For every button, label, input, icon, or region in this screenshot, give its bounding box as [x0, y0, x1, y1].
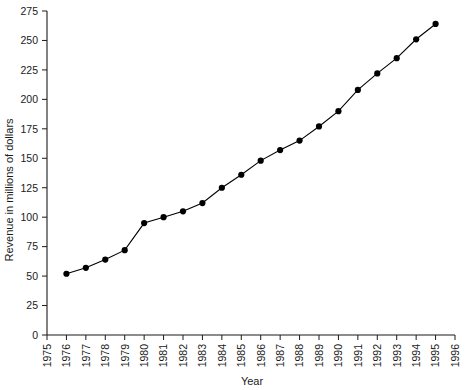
- y-axis-title: Revenue in millions of dollars: [3, 118, 15, 262]
- x-axis-tick-label: 1991: [352, 344, 364, 368]
- data-point: [102, 257, 108, 263]
- data-point: [413, 36, 419, 42]
- data-point: [180, 208, 186, 214]
- y-axis-tick-label: 200: [20, 93, 38, 105]
- data-point: [141, 220, 147, 226]
- data-point: [296, 138, 302, 144]
- x-axis-tick-label: 1982: [177, 344, 189, 368]
- y-axis-tick-label: 275: [20, 5, 38, 17]
- chart-canvas: 0255075100125150175200225250275 19751976…: [0, 0, 475, 390]
- data-point: [355, 87, 361, 93]
- x-axis-tick-label: 1979: [119, 344, 131, 368]
- x-axis-tick-label: 1994: [410, 344, 422, 368]
- y-axis-tick-label: 225: [20, 64, 38, 76]
- data-point: [199, 200, 205, 206]
- x-axis-tick-label: 1987: [274, 344, 286, 368]
- x-axis-tick-label: 1996: [449, 344, 461, 368]
- data-point: [258, 158, 264, 164]
- y-axis-tick-label: 125: [20, 182, 38, 194]
- x-axis-tick-label: 1981: [157, 344, 169, 368]
- x-axis-tick-label: 1992: [371, 344, 383, 368]
- x-axis-tick-label: 1985: [235, 344, 247, 368]
- x-axis-tick-label: 1995: [429, 344, 441, 368]
- x-axis-tick-label: 1983: [196, 344, 208, 368]
- x-axis-tick-label: 1980: [138, 344, 150, 368]
- data-point: [277, 147, 283, 153]
- y-axis-tick-label: 150: [20, 152, 38, 164]
- y-axis-tick-label: 50: [26, 270, 38, 282]
- x-axis-tick-label: 1993: [391, 344, 403, 368]
- x-axis-tick-label: 1984: [216, 344, 228, 368]
- chart-background: [0, 0, 475, 390]
- x-axis-tick-label: 1988: [293, 344, 305, 368]
- y-axis-tick-label: 25: [26, 299, 38, 311]
- revenue-line-chart: 0255075100125150175200225250275 19751976…: [0, 0, 475, 390]
- x-axis-tick-label: 1975: [41, 344, 53, 368]
- data-point: [238, 172, 244, 178]
- data-point: [335, 108, 341, 114]
- y-axis-tick-label: 75: [26, 240, 38, 252]
- y-axis-tick-label: 250: [20, 34, 38, 46]
- x-axis-tick-label: 1976: [60, 344, 72, 368]
- data-point: [122, 247, 128, 253]
- data-point: [160, 214, 166, 220]
- x-axis-tick-label: 1989: [313, 344, 325, 368]
- x-axis-title: Year: [241, 375, 264, 387]
- x-axis-tick-label: 1978: [99, 344, 111, 368]
- data-point: [374, 70, 380, 76]
- y-axis-tick-label: 100: [20, 211, 38, 223]
- x-axis-tick-label: 1977: [80, 344, 92, 368]
- data-point: [219, 185, 225, 191]
- data-point: [316, 123, 322, 129]
- data-point: [83, 265, 89, 271]
- data-point: [394, 55, 400, 61]
- y-axis-tick-label: 0: [32, 329, 38, 341]
- data-point: [432, 21, 438, 27]
- x-axis-tick-label: 1986: [255, 344, 267, 368]
- y-axis-tick-label: 175: [20, 123, 38, 135]
- x-axis-tick-label: 1990: [332, 344, 344, 368]
- data-point: [63, 271, 69, 277]
